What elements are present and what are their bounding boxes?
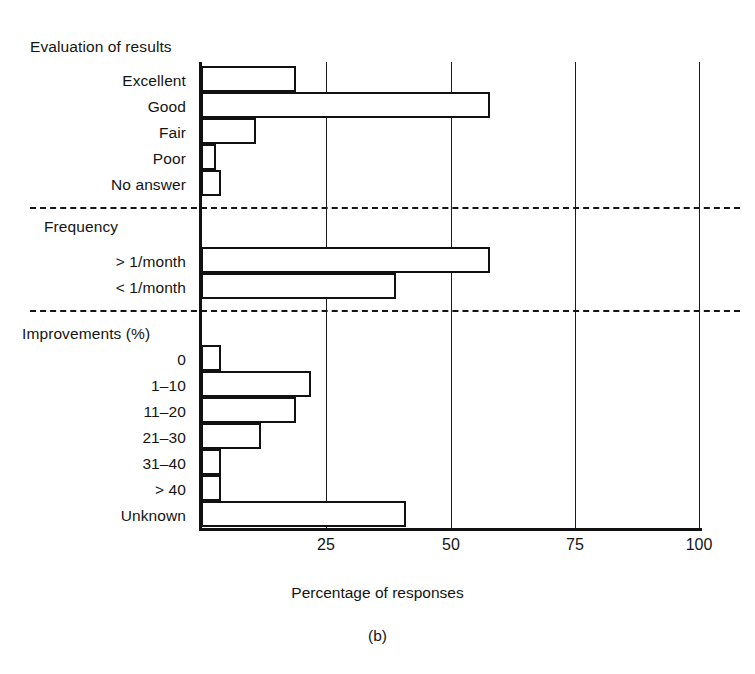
bar-imp-unknown <box>201 501 406 527</box>
bar-imp-11-20 <box>201 397 296 423</box>
category-label-imp-11-20: 11–20 <box>144 403 186 421</box>
bar-no-answer <box>201 170 221 196</box>
category-label-imp-21-30: 21–30 <box>142 429 186 447</box>
category-label-imp-gt-40: > 40 <box>155 481 186 499</box>
category-label-imp-1-10: 1–10 <box>151 377 186 395</box>
figure-caption: (b) <box>0 627 755 645</box>
category-label-poor: Poor <box>153 150 186 168</box>
category-label-good: Good <box>148 98 186 116</box>
gridline-75 <box>575 62 576 528</box>
bar-excellent <box>201 66 296 92</box>
category-label-lt-1-month: < 1/month <box>116 279 186 297</box>
bar-imp-gt-40 <box>201 475 221 501</box>
bar-imp-21-30 <box>201 423 261 449</box>
bar-good <box>201 92 490 118</box>
category-label-fair: Fair <box>159 124 186 142</box>
bar-imp-0 <box>201 345 221 371</box>
x-tick-label-75: 75 <box>566 536 584 554</box>
category-label-imp-31-40: 31–40 <box>142 455 186 473</box>
category-label-imp-0: 0 <box>177 351 186 369</box>
bar-lt-1-month <box>201 273 396 299</box>
category-label-no-answer: No answer <box>111 176 186 194</box>
bar-poor <box>201 144 216 170</box>
x-axis-label: Percentage of responses <box>0 584 755 602</box>
x-tick-label-100: 100 <box>686 536 713 554</box>
plot-area: 25 50 75 100 <box>201 62 700 528</box>
category-label-gt-1-month: > 1/month <box>116 253 186 271</box>
x-tick-label-50: 50 <box>442 536 460 554</box>
group-title-frequency: Frequency <box>44 218 118 236</box>
bar-imp-31-40 <box>201 449 221 475</box>
gridline-50 <box>451 62 452 528</box>
bar-fair <box>201 118 256 144</box>
category-label-imp-unknown: Unknown <box>121 507 186 525</box>
category-label-excellent: Excellent <box>122 72 186 90</box>
group-title-evaluation: Evaluation of results <box>30 38 172 56</box>
x-tick-label-25: 25 <box>317 536 335 554</box>
bar-imp-1-10 <box>201 371 311 397</box>
gridline-100 <box>699 62 700 528</box>
group-title-improvements: Improvements (%) <box>22 325 150 343</box>
figure-bar-chart: Evaluation of results Frequency Improvem… <box>0 0 755 674</box>
x-axis-line <box>199 528 702 531</box>
bar-gt-1-month <box>201 247 490 273</box>
